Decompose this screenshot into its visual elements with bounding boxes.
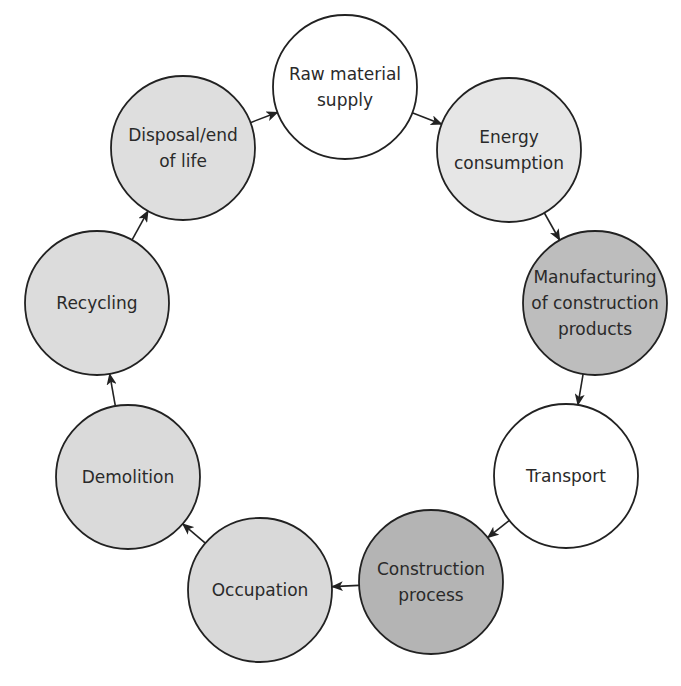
node-label: of life [159, 151, 207, 171]
arrow-disposal-end-of-life-to-raw-material-supply [250, 112, 277, 122]
node-recycling: Recycling [25, 231, 169, 375]
arrow-occupation-to-demolition [183, 524, 206, 543]
node-label: of construction [531, 293, 659, 313]
node-label: Disposal/end [128, 125, 238, 145]
arrow-manufacturing-to-transport [578, 374, 583, 405]
node-disposal-end-of-life: Disposal/endof life [111, 76, 255, 220]
arrow-demolition-to-recycling [110, 374, 116, 406]
node-label: products [558, 319, 632, 339]
node-label: consumption [454, 153, 564, 173]
node-label: Raw material [289, 64, 401, 84]
node-manufacturing: Manufacturingof constructionproducts [523, 231, 667, 375]
node-transport: Transport [494, 404, 638, 548]
node-label: Construction [377, 559, 485, 579]
node-circle [273, 15, 417, 159]
node-occupation: Occupation [188, 518, 332, 662]
node-circle [437, 78, 581, 222]
arrow-recycling-to-disposal-end-of-life [132, 211, 148, 240]
node-label: Transport [525, 466, 606, 486]
node-label: process [398, 585, 463, 605]
node-circle [359, 510, 503, 654]
node-demolition: Demolition [56, 405, 200, 549]
arrow-energy-consumption-to-manufacturing [544, 213, 559, 240]
node-label: Demolition [82, 467, 175, 487]
node-energy-consumption: Energyconsumption [437, 78, 581, 222]
node-construction-process: Constructionprocess [359, 510, 503, 654]
arrow-transport-to-construction-process [488, 520, 510, 537]
node-label: Occupation [212, 580, 309, 600]
node-label: supply [317, 90, 373, 110]
nodes-layer: Raw materialsupplyEnergyconsumptionManuf… [25, 15, 667, 662]
node-label: Energy [479, 127, 539, 147]
arrow-construction-process-to-occupation [332, 585, 359, 586]
life-cycle-diagram: Raw materialsupplyEnergyconsumptionManuf… [0, 0, 681, 686]
node-raw-material-supply: Raw materialsupply [273, 15, 417, 159]
arrow-raw-material-supply-to-energy-consumption [412, 113, 442, 124]
node-label: Manufacturing [533, 267, 656, 287]
node-label: Recycling [56, 293, 137, 313]
node-circle [111, 76, 255, 220]
